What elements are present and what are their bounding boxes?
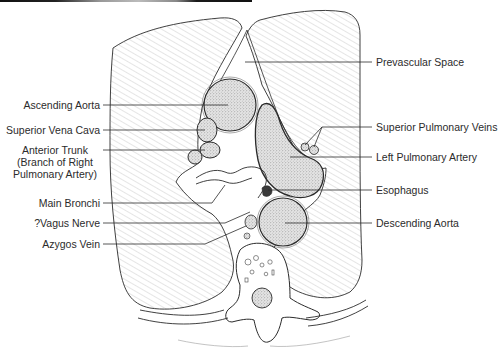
label-esophagus: Esophagus <box>376 184 429 196</box>
right-lung <box>110 18 242 309</box>
label-superior-pulmonary-veins: Superior Pulmonary Veins <box>376 121 497 133</box>
label-superior-vena-cava: Superior Vena Cava <box>0 124 100 136</box>
superior-pulmonary-vein-1 <box>301 143 309 151</box>
label-descending-aorta: Descending Aorta <box>376 217 459 229</box>
label-anterior-trunk-line-2: (Branch of Right <box>10 156 100 168</box>
spinal-canal <box>252 288 272 308</box>
descending-aorta-vessel <box>259 198 307 246</box>
label-azygos-vein: Azygos Vein <box>0 238 100 250</box>
thorax-cross-section-drawing <box>0 0 504 360</box>
label-anterior-trunk: Anterior Trunk (Branch of Right Pulmonar… <box>10 144 100 180</box>
label-ascending-aorta: Ascending Aorta <box>0 99 100 111</box>
label-vagus-nerve: ?Vagus Nerve <box>0 217 100 229</box>
label-prevascular-space: Prevascular Space <box>376 56 464 68</box>
label-left-pulmonary-artery: Left Pulmonary Artery <box>376 151 477 163</box>
label-main-bronchi: Main Bronchi <box>0 197 100 209</box>
esophagus-structure <box>262 186 272 197</box>
label-anterior-trunk-line-1: Anterior Trunk <box>10 144 100 156</box>
rib-left <box>138 310 228 324</box>
main-bronchi-tube <box>196 167 266 198</box>
azygos-vein-structure <box>244 233 250 239</box>
vagus-nerve-structure <box>245 215 257 229</box>
label-anterior-trunk-line-3: Pulmonary Artery) <box>10 168 100 180</box>
